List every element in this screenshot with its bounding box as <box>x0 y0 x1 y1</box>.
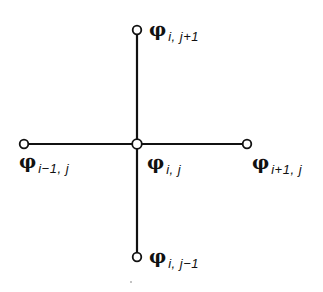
scan-speck <box>130 281 132 283</box>
subscript: i−1, j <box>38 161 69 176</box>
node-west-circle-icon <box>20 140 29 149</box>
node-north-circle-icon <box>133 26 142 35</box>
node-center-circle-icon <box>132 139 142 149</box>
label-west: φi−1, j <box>19 152 69 171</box>
label-east: φi+1, j <box>252 153 302 172</box>
phi-symbol: φ <box>19 150 36 172</box>
subscript: i, j <box>166 162 181 177</box>
label-south: φi, j−1 <box>149 247 199 266</box>
node-east-circle-icon <box>243 140 252 149</box>
label-north: φi, j+1 <box>149 20 199 39</box>
phi-symbol: φ <box>149 245 166 267</box>
phi-symbol: φ <box>252 151 269 173</box>
subscript: i, j+1 <box>168 29 199 44</box>
node-south-circle-icon <box>133 253 142 262</box>
phi-symbol: φ <box>147 151 164 173</box>
phi-symbol: φ <box>149 18 166 40</box>
label-center: φi, j <box>147 153 181 172</box>
subscript: i, j−1 <box>168 256 199 271</box>
subscript: i+1, j <box>271 162 302 177</box>
